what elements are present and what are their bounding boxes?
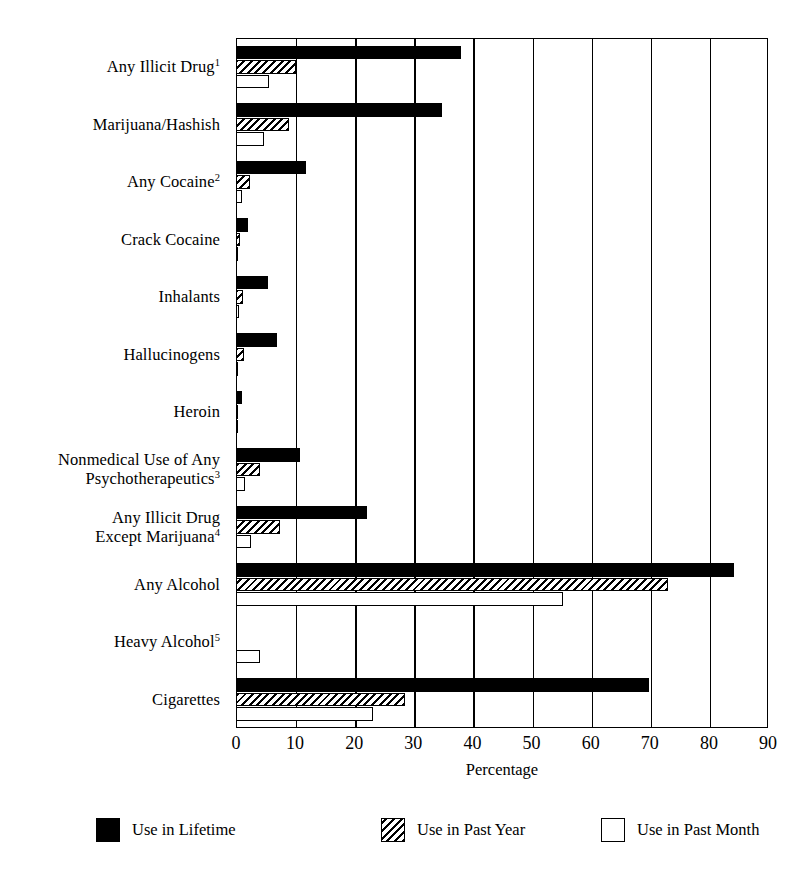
bar-use-in-lifetime: [236, 103, 442, 117]
bar-use-in-lifetime: [236, 563, 734, 577]
bar-use-in-past-month: [236, 707, 373, 721]
x-axis-title: Percentage: [236, 760, 768, 780]
bar-chart: Any Illicit Drug1Marijuana/HashishAny Co…: [0, 0, 802, 872]
bar-use-in-lifetime: [236, 678, 649, 692]
hatched-swatch: [381, 818, 405, 842]
bar-use-in-past-month: [236, 650, 260, 664]
bar-use-in-lifetime: [236, 333, 277, 347]
x-tick-label-30: 30: [404, 732, 422, 754]
category-label: Any Illicit DrugExcept Marijuana4: [0, 508, 220, 546]
footnote-marker: 4: [215, 526, 220, 537]
x-tick-label-20: 20: [345, 732, 363, 754]
category-label: Marijuana/Hashish: [0, 115, 220, 134]
open-white-swatch: [601, 818, 625, 842]
bar-use-in-past-year: [236, 175, 250, 189]
category-label: Heroin: [0, 402, 220, 421]
bar-use-in-past-year: [236, 693, 405, 707]
x-tick-label-60: 60: [582, 732, 600, 754]
x-tick-label-40: 40: [463, 732, 481, 754]
category-label: Hallucinogens: [0, 345, 220, 364]
category-label: Crack Cocaine: [0, 230, 220, 249]
legend-item: Use in Past Year: [381, 818, 525, 842]
x-tick-label-90: 90: [759, 732, 777, 754]
chart-legend: Use in LifetimeUse in Past YearUse in Pa…: [96, 818, 756, 854]
x-tick-label-10: 10: [286, 732, 304, 754]
bar-use-in-lifetime: [236, 506, 367, 520]
bar-use-in-past-month: [236, 132, 264, 146]
bar-use-in-past-month: [236, 535, 251, 549]
bar-use-in-lifetime: [236, 276, 268, 290]
category-label: Heavy Alcohol5: [0, 632, 220, 651]
solid-black-swatch: [96, 818, 120, 842]
bar-use-in-past-year: [236, 290, 243, 304]
footnote-marker: 3: [215, 469, 220, 480]
category-label: Inhalants: [0, 287, 220, 306]
bar-use-in-lifetime: [236, 391, 242, 405]
footnote-marker: 1: [215, 57, 220, 68]
bar-use-in-past-year: [236, 578, 668, 592]
legend-item: Use in Past Month: [601, 818, 759, 842]
category-label: Any Illicit Drug1: [0, 57, 220, 76]
bar-use-in-past-year: [236, 233, 240, 247]
category-label: Cigarettes: [0, 690, 220, 709]
x-tick-label-0: 0: [232, 732, 241, 754]
x-tick-label-70: 70: [641, 732, 659, 754]
bar-use-in-past-month: [236, 592, 563, 606]
category-label: Nonmedical Use of AnyPsychotherapeutics3: [0, 450, 220, 488]
bar-use-in-past-year: [236, 463, 260, 477]
legend-label: Use in Past Month: [637, 820, 759, 840]
legend-item: Use in Lifetime: [96, 818, 236, 842]
category-axis-labels: Any Illicit Drug1Marijuana/HashishAny Co…: [0, 38, 228, 728]
legend-label: Use in Lifetime: [132, 820, 236, 840]
x-tick-label-50: 50: [523, 732, 541, 754]
footnote-marker: 2: [215, 172, 220, 183]
bar-use-in-past-month: [236, 247, 238, 261]
bar-use-in-past-year: [236, 60, 296, 74]
bar-use-in-past-month: [236, 305, 239, 319]
bar-use-in-past-year: [236, 118, 289, 132]
bar-use-in-past-month: [236, 477, 245, 491]
bar-use-in-past-year: [236, 348, 244, 362]
footnote-marker: 5: [215, 632, 220, 643]
bars-layer: [236, 38, 768, 728]
legend-label: Use in Past Year: [417, 820, 525, 840]
bar-use-in-lifetime: [236, 46, 461, 60]
bar-use-in-lifetime: [236, 218, 248, 232]
bar-use-in-past-month: [236, 362, 238, 376]
category-label: Any Alcohol: [0, 575, 220, 594]
category-label: Any Cocaine2: [0, 172, 220, 191]
bar-use-in-lifetime: [236, 448, 300, 462]
x-tick-label-80: 80: [700, 732, 718, 754]
bar-use-in-past-month: [236, 190, 242, 204]
bar-use-in-past-year: [236, 520, 280, 534]
bar-use-in-lifetime: [236, 161, 306, 175]
bar-use-in-past-year: [236, 405, 238, 419]
bar-use-in-past-month: [236, 420, 238, 434]
bar-use-in-past-month: [236, 75, 269, 89]
